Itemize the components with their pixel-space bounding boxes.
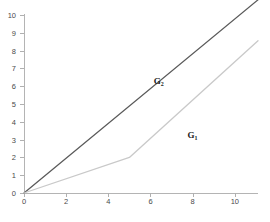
series-label-G2: G2 [154, 76, 164, 86]
series-label-subscript: 2 [161, 81, 164, 87]
series-layer [0, 0, 270, 222]
series-label-G1: G1 [187, 130, 197, 140]
chart-container: 0123456789100246810 G2G1 [0, 0, 270, 222]
series-line-G2 [24, 0, 258, 193]
series-label-text: G [154, 76, 161, 86]
series-label-subscript: 1 [194, 135, 197, 141]
series-line-G1 [24, 41, 258, 193]
